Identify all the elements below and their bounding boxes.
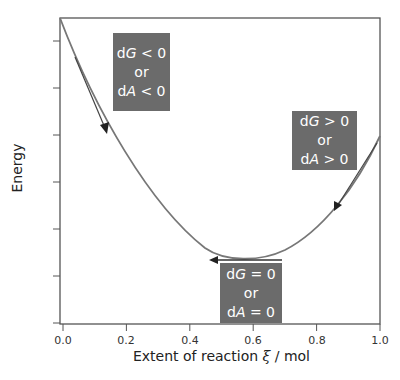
annotation-box-dg-positive: dG > 0 or dA > 0: [292, 111, 357, 170]
x-tick-label: 1.0: [360, 334, 400, 347]
chart-canvas: [0, 0, 400, 380]
y-ticks: [53, 41, 60, 323]
x-tick-label: 0.4: [170, 334, 210, 347]
x-tick-label: 0.8: [297, 334, 337, 347]
x-ticks: [63, 324, 380, 331]
left-arrow-icon: [75, 57, 109, 134]
x-axis-label: Extent of reaction ξ / mol: [63, 348, 380, 364]
x-tick-label: 0.6: [233, 334, 273, 347]
x-tick-label: 0.2: [106, 334, 146, 347]
annotation-box-dg-negative: dG < 0 or dA < 0: [113, 33, 170, 111]
x-tick-label: 0.0: [43, 334, 83, 347]
annotation-box-dg-zero: dG = 0 or dA = 0: [220, 263, 282, 323]
y-axis-label: Energy: [9, 138, 25, 198]
